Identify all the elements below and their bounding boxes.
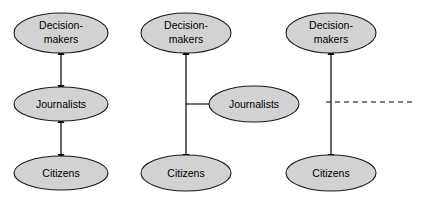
node-journalists[interactable] — [14, 87, 108, 121]
panel-middle: Decision- makers Journalists Citizens — [141, 13, 299, 191]
node-citizens[interactable] — [286, 155, 376, 191]
node-decision-makers[interactable] — [14, 13, 108, 53]
node-citizens[interactable] — [141, 155, 231, 191]
node-decision-makers[interactable] — [286, 13, 376, 53]
diagram-canvas: Decision- makers Journalists Citizens De… — [0, 0, 422, 204]
panel-left: Decision- makers Journalists Citizens — [14, 13, 108, 190]
node-citizens[interactable] — [14, 156, 108, 190]
node-journalists[interactable] — [209, 86, 299, 122]
panel-right: Decision- makers Citizens — [286, 13, 414, 191]
diagram-svg: Decision- makers Journalists Citizens De… — [0, 0, 422, 204]
node-decision-makers[interactable] — [141, 13, 231, 53]
